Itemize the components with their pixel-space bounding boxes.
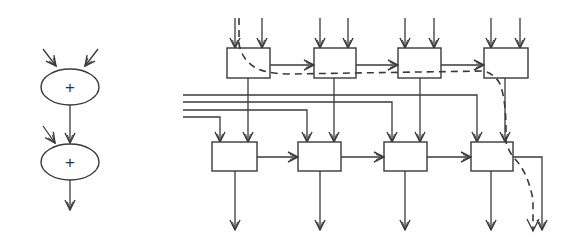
input-arrow <box>85 49 98 66</box>
bottom-cell-1 <box>212 142 257 171</box>
bottom-cell-3 <box>384 142 427 171</box>
plus-label: + <box>65 153 75 172</box>
diagram-canvas: + + <box>0 0 571 245</box>
systolic-array <box>183 18 542 231</box>
bottom-cell-4 <box>471 142 513 171</box>
diagram-svg: + + <box>0 0 571 245</box>
bus-line-4 <box>183 117 220 142</box>
bottom-cell-2 <box>298 142 341 171</box>
adder-chain: + + <box>41 49 99 210</box>
top-cell-3 <box>398 48 441 78</box>
input-arrow <box>43 126 55 143</box>
bus-line-2 <box>183 102 392 142</box>
plus-label: + <box>65 78 75 97</box>
input-arrow <box>43 49 56 66</box>
top-cell-1 <box>227 48 270 78</box>
bus-line-3 <box>183 110 307 142</box>
